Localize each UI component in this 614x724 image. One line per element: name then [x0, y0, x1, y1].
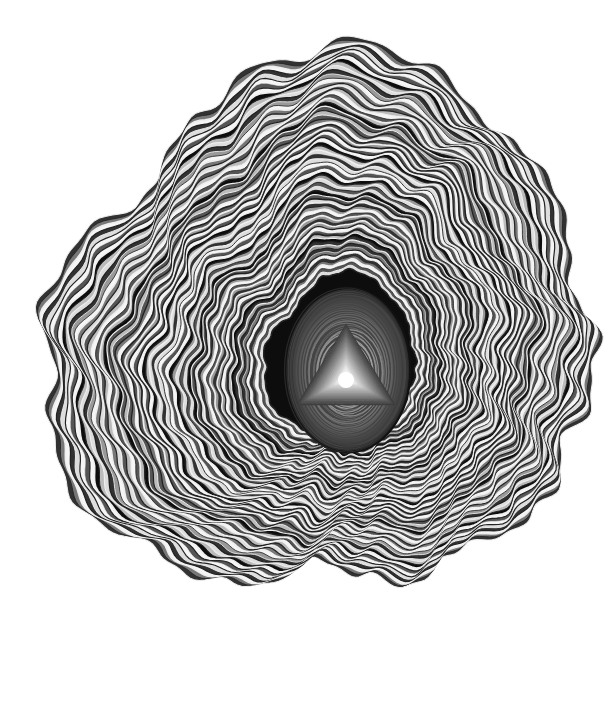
generative-ring-artwork [0, 0, 614, 724]
